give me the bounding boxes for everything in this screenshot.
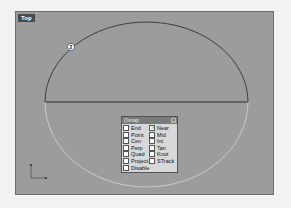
osnap-option-quad[interactable]: Quad [123, 151, 144, 157]
osnap-option-knot[interactable]: Knot [149, 151, 168, 157]
osnap-option-label: Int [157, 139, 163, 145]
osnap-checkbox[interactable] [123, 145, 129, 151]
osnap-checkbox[interactable] [123, 132, 129, 138]
osnap-option-project[interactable]: Project [123, 158, 148, 164]
osnap-option-label: Mid [157, 132, 166, 138]
svg-text:2: 2 [70, 44, 73, 50]
osnap-checkbox[interactable] [149, 132, 155, 138]
osnap-option-label: Perp [131, 145, 143, 151]
osnap-option-disable[interactable]: Disable [123, 165, 149, 171]
osnap-option-int[interactable]: Int [149, 138, 163, 144]
osnap-option-tan[interactable]: Tan [149, 145, 166, 151]
osnap-option-label: STrack [157, 158, 174, 164]
osnap-checkbox[interactable] [149, 158, 155, 164]
osnap-option-mid[interactable]: Mid [149, 132, 166, 138]
osnap-checkbox[interactable] [123, 158, 129, 164]
osnap-option-strack[interactable]: STrack [149, 158, 174, 164]
osnap-checkbox[interactable] [123, 151, 129, 157]
axis-icon [30, 164, 47, 179]
osnap-checkbox[interactable] [123, 125, 129, 131]
osnap-option-label: Tan [157, 145, 166, 151]
osnap-checkbox[interactable] [149, 145, 155, 151]
osnap-option-label: Knot [157, 152, 168, 158]
osnap-option-label: Point [131, 132, 144, 138]
osnap-checkbox[interactable] [149, 151, 155, 157]
osnap-option-near[interactable]: ✓Near [149, 125, 169, 131]
osnap-checkbox[interactable]: ✓ [149, 125, 155, 131]
close-icon[interactable]: × [171, 118, 176, 123]
osnap-panel[interactable]: Osnap × End✓NearPointMidCenIntPerpTanQua… [121, 116, 178, 173]
osnap-option-label: Disable [131, 165, 149, 171]
osnap-title-bar[interactable]: Osnap × [122, 117, 177, 124]
viewport-geometry: 2 [0, 0, 291, 208]
osnap-option-label: Cen [131, 139, 141, 145]
osnap-title: Osnap [124, 117, 139, 123]
osnap-checkbox[interactable] [149, 138, 155, 144]
osnap-option-cen[interactable]: Cen [123, 138, 141, 144]
osnap-checkbox[interactable] [123, 138, 129, 144]
osnap-option-end[interactable]: End [123, 125, 141, 131]
osnap-option-label: Near [157, 125, 169, 131]
osnap-option-label: Quad [131, 152, 144, 158]
arc-upper [45, 22, 248, 102]
osnap-option-perp[interactable]: Perp [123, 145, 143, 151]
point-marker-icon: 2 [67, 43, 74, 50]
osnap-checkbox[interactable] [123, 165, 129, 171]
osnap-option-label: Project [131, 158, 148, 164]
osnap-option-point[interactable]: Point [123, 132, 144, 138]
osnap-option-label: End [131, 125, 141, 131]
